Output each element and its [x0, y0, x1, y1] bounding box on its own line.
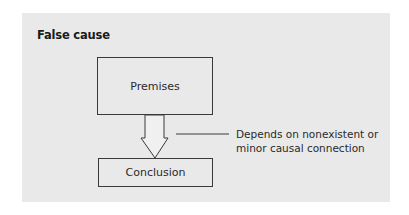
annotation-text: Depends on nonexistent or minor causal c…	[236, 127, 378, 155]
conclusion-label: Conclusion	[126, 166, 186, 179]
premises-label: Premises	[130, 80, 180, 93]
diagram-title: False cause	[37, 28, 110, 42]
premises-box: Premises	[97, 57, 213, 115]
annotation-line-2: minor causal connection	[236, 141, 378, 155]
annotation-line-1: Depends on nonexistent or	[236, 127, 378, 141]
conclusion-box: Conclusion	[98, 158, 213, 187]
